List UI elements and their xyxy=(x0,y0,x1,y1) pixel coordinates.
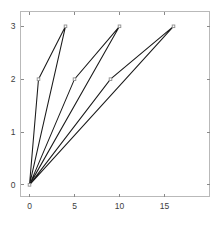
vertex-marker-5 xyxy=(109,78,112,81)
series-loop-3 xyxy=(30,26,174,185)
figure-container: 051015 0123 xyxy=(0,0,220,235)
x-tick-label-0: 0 xyxy=(27,201,32,211)
data-series-group xyxy=(30,26,174,185)
tick-marks xyxy=(21,12,210,197)
y-tick-label-3: 3 xyxy=(11,21,16,31)
x-tick-label-1: 5 xyxy=(72,201,77,211)
vertex-marker-4 xyxy=(118,25,121,28)
axes-frame xyxy=(21,12,210,197)
y-axis-tick-labels: 0123 xyxy=(11,21,16,190)
vertex-marker-6 xyxy=(172,25,175,28)
vertex-marker-3 xyxy=(73,78,76,81)
vertex-marker-0 xyxy=(28,184,31,187)
y-tick-label-1: 1 xyxy=(11,127,16,137)
vertex-marker-1 xyxy=(37,78,40,81)
x-tick-label-2: 10 xyxy=(115,201,125,211)
series-loop-2 xyxy=(30,26,120,185)
y-tick-label-0: 0 xyxy=(11,180,16,190)
chart-plot: 051015 0123 xyxy=(0,0,220,235)
vertex-marker-2 xyxy=(64,25,67,28)
plot-frame xyxy=(21,12,210,197)
x-axis-tick-labels: 051015 xyxy=(27,201,169,211)
y-tick-label-2: 2 xyxy=(11,74,16,84)
x-tick-label-3: 15 xyxy=(160,201,170,211)
